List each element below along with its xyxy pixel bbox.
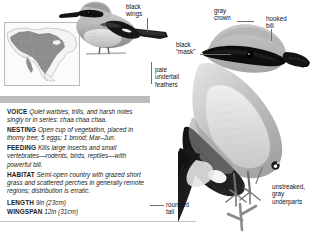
callout-unstreaked-underparts: unstreaked, gray underparts — [272, 183, 305, 205]
measurements: LENGTH 9in (23cm) WINGSPAN 12in (31cm) — [7, 198, 144, 216]
small-bird-illustration — [56, 0, 172, 64]
measurement-wingspan: WINGSPAN 12in (31cm) — [7, 207, 144, 216]
leader-gray-crown — [237, 21, 254, 22]
species-account-body: VOICE Quiet warbles, trills, and harsh n… — [0, 103, 150, 220]
account-entry-feeding: FEEDING Kills large insects and small ve… — [7, 144, 144, 169]
callout-pale-undertail: pale undertail feathers — [155, 66, 179, 88]
leader-pale-undertail — [151, 62, 152, 84]
account-entry-nesting: NESTING Open cup of vegetation, placed i… — [7, 126, 144, 143]
measurement-label-length: LENGTH — [7, 199, 34, 206]
callout-black-wings: black wings — [126, 3, 142, 18]
account-label-voice: VOICE — [7, 108, 27, 115]
measurement-value-length: 9in (23cm) — [36, 199, 66, 206]
field-guide-page: black wings gray crown hooked bill black… — [0, 0, 312, 232]
leader-hooked-bill — [271, 29, 272, 41]
callout-gray-crown: gray crown — [214, 7, 231, 22]
callout-hooked-bill: hooked bill — [266, 15, 287, 30]
measurement-value-wingspan: 12in (31cm) — [44, 208, 78, 215]
panel-bottom-rule — [0, 221, 196, 222]
account-entry-voice: VOICE Quiet warbles, trills, and harsh n… — [7, 108, 144, 125]
account-label-habitat: HABITAT — [7, 171, 35, 178]
leader-black-wings — [147, 18, 148, 32]
measurement-length: LENGTH 9in (23cm) — [7, 198, 144, 207]
measurement-label-wingspan: WINGSPAN — [7, 208, 42, 215]
callout-black-mask: black “mask” — [176, 41, 195, 56]
callout-rounded-tail: rounded tail — [166, 201, 189, 216]
leader-black-mask — [200, 54, 231, 55]
account-label-feeding: FEEDING — [7, 144, 36, 151]
account-entry-habitat: HABITAT Semi-open country with grazed sh… — [7, 171, 144, 196]
account-label-nesting: NESTING — [7, 126, 36, 133]
adult-symbol-badge — [271, 161, 280, 170]
species-account-panel: VOICE Quiet warbles, trills, and harsh n… — [0, 96, 150, 220]
panel-header-band — [0, 96, 150, 103]
